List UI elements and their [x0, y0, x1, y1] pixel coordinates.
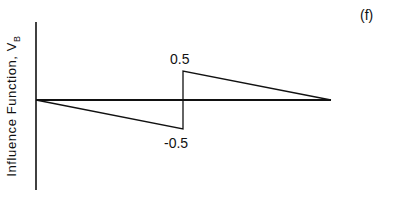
- panel-label: (f): [360, 8, 373, 22]
- y-axis-label-text: Influence Function, V: [4, 42, 19, 177]
- y-axis-label-subscript: B: [12, 35, 22, 42]
- y-axis-label: Influence Function, VB: [4, 35, 22, 176]
- lower-value-label: -0.5: [164, 136, 188, 150]
- influence-diagram: [0, 0, 397, 202]
- upper-value-label: 0.5: [170, 52, 189, 66]
